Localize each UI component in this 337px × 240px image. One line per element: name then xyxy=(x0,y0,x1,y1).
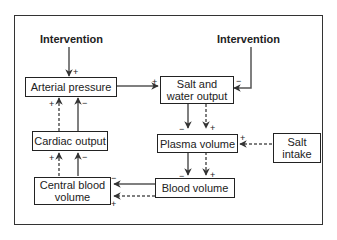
sign-plasma-to-blood-dashed: + xyxy=(210,171,215,180)
node-plasma-volume-label: Plasma volume xyxy=(160,138,235,150)
node-blood-volume: Blood volume xyxy=(155,178,235,198)
sign-cardiac-to-arterial-solid: − xyxy=(82,99,87,108)
node-salt-intake: Salt intake xyxy=(273,133,321,163)
sign-central-to-cardiac-dashed: + xyxy=(49,154,54,163)
sign-arterial-to-saltwater: + xyxy=(152,78,157,87)
sign-plasma-to-blood-solid: − xyxy=(179,172,184,181)
intervention-left-label: Intervention xyxy=(40,33,103,45)
sign-saltintake-to-plasma: + xyxy=(240,134,245,143)
node-salt-water-output: Salt and water output xyxy=(160,76,234,104)
node-arterial-pressure: Arterial pressure xyxy=(25,77,117,97)
sign-saltwater-to-plasma-solid: − xyxy=(179,125,184,134)
sign-blood-to-central-dashed: + xyxy=(111,200,116,209)
sign-blood-to-central-solid: − xyxy=(111,174,116,183)
sign-intervention-to-saltwater: − xyxy=(236,77,241,86)
node-salt-intake-line2: intake xyxy=(282,148,311,160)
intervention-right-label: Intervention xyxy=(217,33,280,45)
node-salt-water-output-line1: Salt and xyxy=(177,78,217,90)
node-salt-water-output-line2: water output xyxy=(167,90,228,102)
node-cardiac-output-label: Cardiac output xyxy=(34,135,106,147)
node-blood-volume-label: Blood volume xyxy=(162,182,229,194)
sign-central-to-cardiac-solid: − xyxy=(82,153,87,162)
node-central-blood-volume: Central blood volume xyxy=(34,177,111,205)
node-arterial-pressure-label: Arterial pressure xyxy=(31,81,112,93)
node-salt-intake-line1: Salt xyxy=(288,136,307,148)
node-cardiac-output: Cardiac output xyxy=(32,131,108,151)
node-plasma-volume: Plasma volume xyxy=(157,134,238,153)
node-central-blood-volume-line2: volume xyxy=(55,191,90,203)
node-central-blood-volume-line1: Central blood xyxy=(40,179,105,191)
sign-cardiac-to-arterial-dashed: + xyxy=(49,100,54,109)
sign-intervention-to-arterial: + xyxy=(73,68,78,77)
sign-saltwater-to-plasma-dashed: + xyxy=(210,124,215,133)
